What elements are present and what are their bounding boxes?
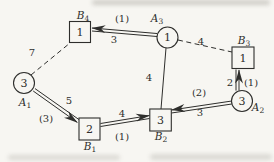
node-b3-label: B3 [237,34,251,48]
edge-cost-label: 3 [111,34,117,45]
node-b2-value: 3 [157,114,164,127]
edge-a3-b2: 4 [146,48,166,109]
edge-flow-label: (3) [39,113,53,124]
node-b4-value: 1 [77,26,84,39]
edge-a3-b3: 4 [178,36,232,52]
node-b4-label-sub: 4 [84,14,89,23]
edge-cost-label: 4 [198,36,204,47]
node-b3-label-letter: B [237,34,246,46]
node-b4-label-letter: B [76,9,85,21]
edge-flow-label: (1) [115,13,129,24]
edge-line [178,40,232,52]
edge-line-arrow [92,28,157,34]
node-b2-label-sub: 2 [162,135,167,144]
node-a1-value: 3 [21,77,28,90]
node-a2-value: 3 [239,95,246,108]
node-a3-value: 1 [164,31,171,44]
node-a1-label-sub: 1 [26,101,31,110]
scanned-figure-page: 7 4 4 (1) 3 5 (3) 4 [0,0,274,162]
edge-cost-label: 7 [29,47,35,58]
node-a3: 1 A3 [150,12,178,48]
node-b2: 3 B2 [150,109,172,144]
node-a3-label-sub: 3 [158,17,163,26]
node-b1-label-sub: 1 [91,145,96,154]
edge-line [92,31,157,37]
edge-cost-label: 4 [146,72,152,83]
node-b4-label: B4 [76,9,90,23]
node-b2-label-letter: B [154,130,163,142]
edge-a1-b4: 7 [29,43,70,75]
edge-flow-label: (1) [244,77,258,88]
edge-a2-b2: (2) 3 [172,87,232,118]
node-a1: 3 A1 [14,73,35,111]
network-diagram: 7 4 4 (1) 3 5 (3) 4 [0,0,274,162]
edge-a2-b3: 2 (1) [227,70,258,91]
node-a2: 3 A2 [232,91,265,116]
edge-flow-label: (2) [192,87,206,98]
node-b3-label-sub: 3 [245,39,250,48]
node-b1: 2 B1 [79,118,100,154]
node-a2-label: A2 [251,101,265,115]
edge-line [161,48,166,109]
edge-line [31,43,70,75]
edge-cost-label: 4 [119,108,125,119]
node-b3: 1 B3 [232,34,254,69]
edge-a1-b1: 5 (3) [33,89,79,124]
node-b3-value: 1 [240,52,247,65]
node-b1-label: B1 [83,140,97,154]
edge-a3-b4: (1) 3 [92,13,157,45]
node-b4: 1 B4 [70,9,91,43]
node-a2-label-sub: 2 [259,106,264,115]
node-b1-label-letter: B [83,140,92,152]
node-a3-label: A3 [150,12,164,26]
edge-cost-label: 5 [66,95,72,106]
edge-flow-label: (1) [115,131,129,142]
edge-cost-label: 2 [227,77,233,88]
edge-cost-label: 3 [197,107,203,118]
node-a1-label: A1 [18,96,31,110]
node-b1-value: 2 [86,123,93,136]
edge-b1-b2: 4 (1) [101,108,150,142]
node-b2-label: B2 [154,130,168,144]
